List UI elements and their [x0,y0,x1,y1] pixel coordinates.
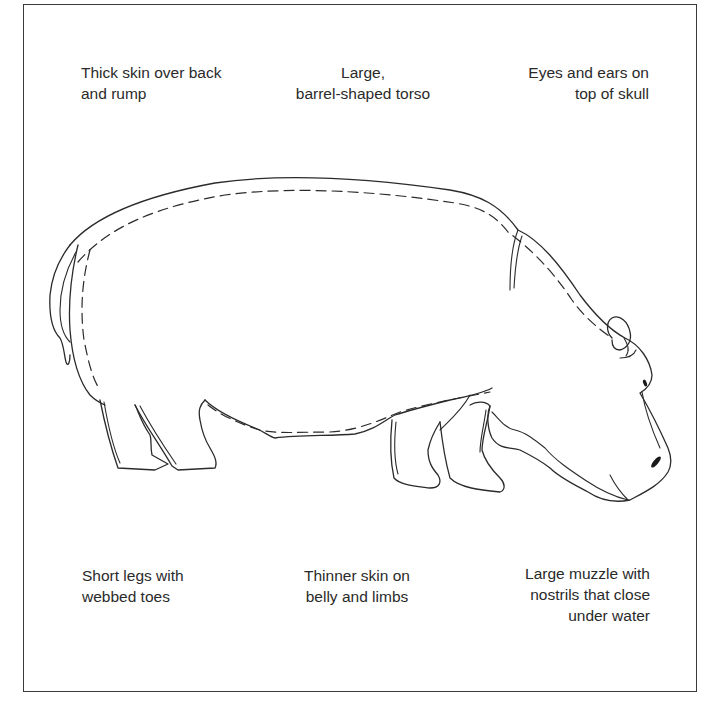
mouth-line [610,475,628,500]
hind-leg-front-outline [135,400,216,470]
rump-back-line [69,245,105,405]
belly-dashed [208,392,490,433]
rump-dashed [82,250,100,390]
label-muzzle-line2: nostrils that close [470,584,650,605]
label-short-legs: Short legs with webbed toes [82,565,184,607]
belly-outline [205,388,492,438]
label-thinner-skin: Thinner skin on belly and limbs [290,565,424,607]
hind-leg-back-line [104,402,120,463]
eye-icon [642,379,648,387]
body-outline [70,178,671,501]
label-muzzle-line1: Large muzzle with [470,563,650,584]
label-thinner-skin-line2: belly and limbs [290,586,424,607]
label-short-legs-line2: webbed toes [82,586,184,607]
label-muzzle-line3: under water [470,605,650,626]
back-skin-dashed [78,190,612,338]
nostril-icon [650,455,663,469]
front-leg-upper-line [440,395,470,430]
jaw-line [492,412,628,500]
label-short-legs-line1: Short legs with [82,565,184,586]
label-muzzle: Large muzzle with nostrils that close un… [470,563,650,626]
label-thinner-skin-line1: Thinner skin on [290,565,424,586]
front-leg-near-outline [391,420,440,488]
front-leg-far-outline [440,402,504,492]
hind-leg-front-inner [140,406,176,464]
ear-hump-line-inner [514,236,522,288]
hind-leg-outline [100,400,168,470]
front-leg-near-inner [395,422,398,474]
